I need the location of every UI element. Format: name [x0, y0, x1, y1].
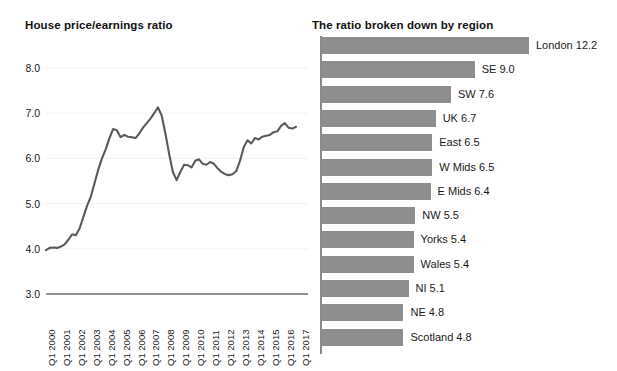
- x-axis-tick-label: Q1 2010: [196, 330, 206, 366]
- x-axis-tick-label: Q1 2014: [256, 330, 266, 366]
- x-axis-tick-label: Q1 2013: [241, 330, 251, 366]
- line-chart-svg: [0, 0, 312, 371]
- bar-row[interactable]: W Mids 6.5: [322, 159, 494, 176]
- y-axis-tick-label: 6.0: [12, 153, 40, 164]
- x-axis-tick-label: Q1 2007: [151, 330, 161, 366]
- bar-value-label: E Mids 6.4: [438, 186, 490, 197]
- x-axis-tick-label: Q1 2009: [181, 330, 191, 366]
- bar-rect: [322, 280, 409, 297]
- bar-value-label: Yorks 5.4: [421, 234, 466, 245]
- bar-row[interactable]: NI 5.1: [322, 280, 445, 297]
- bar-value-label: Wales 5.4: [421, 259, 470, 270]
- bar-row[interactable]: NW 5.5: [322, 207, 459, 224]
- bar-row[interactable]: SE 9.0: [322, 61, 515, 78]
- bar-rect: [322, 329, 403, 346]
- bar-rect: [322, 134, 432, 151]
- bar-chart-title: The ratio broken down by region: [312, 19, 493, 31]
- bar-rect: [322, 183, 431, 200]
- bar-value-label: Scotland 4.8: [410, 332, 471, 343]
- bar-rect: [322, 159, 432, 176]
- x-axis-tick-label: Q1 2002: [77, 330, 87, 366]
- bar-value-label: NW 5.5: [422, 210, 459, 221]
- bar-row[interactable]: Yorks 5.4: [322, 231, 466, 248]
- x-axis-tick-label: Q1 2017: [301, 330, 311, 366]
- bar-value-label: NI 5.1: [416, 283, 445, 294]
- x-axis-tick-label: Q1 2012: [226, 330, 236, 366]
- x-axis-tick-label: Q1 2008: [166, 330, 176, 366]
- bar-value-label: W Mids 6.5: [439, 162, 494, 173]
- y-axis-tick-label: 3.0: [12, 289, 40, 300]
- bar-rect: [322, 61, 475, 78]
- x-axis-tick-label: Q1 2015: [271, 330, 281, 366]
- bar-value-label: East 6.5: [439, 137, 479, 148]
- y-axis-tick-label: 5.0: [12, 199, 40, 210]
- bar-rect: [322, 304, 403, 321]
- bar-row[interactable]: East 6.5: [322, 134, 480, 151]
- bar-rect: [322, 37, 529, 54]
- bar-row[interactable]: NE 4.8: [322, 304, 444, 321]
- price-earnings-line: [46, 107, 296, 250]
- bar-rect: [322, 86, 451, 103]
- y-axis-tick-label: 8.0: [12, 63, 40, 74]
- bar-value-label: SE 9.0: [482, 64, 515, 75]
- x-axis-tick-label: Q1 2001: [62, 330, 72, 366]
- bar-rect: [322, 110, 436, 127]
- y-axis-tick-label: 4.0: [12, 244, 40, 255]
- x-axis-tick-label: Q1 2011: [211, 330, 221, 366]
- bar-row[interactable]: Scotland 4.8: [322, 329, 472, 346]
- line-chart-panel: House price/earnings ratio 3.04.05.06.07…: [0, 0, 312, 371]
- bar-row[interactable]: Wales 5.4: [322, 256, 469, 273]
- gridlines: [46, 68, 308, 249]
- x-axis-tick-label: Q1 2006: [137, 330, 147, 366]
- bar-value-label: London 12.2: [536, 40, 597, 51]
- x-axis-tick-label: Q1 2003: [92, 330, 102, 366]
- y-axis-tick-label: 7.0: [12, 108, 40, 119]
- bar-row[interactable]: UK 6.7: [322, 110, 476, 127]
- bar-rect: [322, 207, 415, 224]
- infographic-page: House price/earnings ratio 3.04.05.06.07…: [0, 0, 617, 371]
- x-axis-tick-label: Q1 2004: [107, 330, 117, 366]
- x-axis-tick-label: Q1 2016: [286, 330, 296, 366]
- bar-value-label: NE 4.8: [410, 307, 444, 318]
- x-axis-tick-label: Q1 2000: [47, 330, 57, 366]
- bar-value-label: UK 6.7: [443, 113, 477, 124]
- x-axis-tick-label: Q1 2005: [122, 330, 132, 366]
- bar-row[interactable]: E Mids 6.4: [322, 183, 490, 200]
- bar-rect: [322, 256, 414, 273]
- bar-value-label: SW 7.6: [458, 89, 494, 100]
- bar-chart-panel: The ratio broken down by region London 1…: [312, 0, 617, 371]
- bar-rect: [322, 231, 414, 248]
- bar-row[interactable]: SW 7.6: [322, 86, 494, 103]
- bar-row[interactable]: London 12.2: [322, 37, 597, 54]
